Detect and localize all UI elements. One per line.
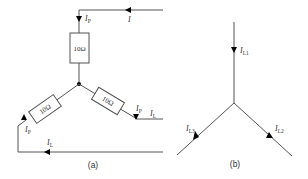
label-l2: IL2	[274, 124, 284, 134]
arrow-phase-top-icon	[76, 16, 82, 22]
arrow-l1-icon	[231, 47, 237, 53]
label-line-bottom: IL	[46, 138, 54, 148]
label-line-right: IL	[149, 109, 157, 119]
arrow-phase-left-icon	[21, 114, 27, 120]
bottom-line-wire	[18, 120, 163, 152]
resistor-right: 10Ω	[92, 87, 125, 114]
resistor-left: 10Ω	[29, 95, 62, 124]
label-phase-right: IP	[135, 104, 142, 114]
label-phase-left: IP	[24, 125, 31, 135]
resistor-top-label: 10Ω	[73, 45, 85, 53]
caption-a: (a)	[88, 160, 99, 170]
caption-b: (b)	[230, 159, 241, 169]
panel-a: I IP 10Ω 10Ω IP IL 10Ω IP IL (a)	[18, 7, 163, 170]
star-connection-figure: I IP 10Ω 10Ω IP IL 10Ω IP IL (a)	[0, 0, 308, 179]
label-l1: IL1	[239, 46, 249, 56]
label-line-top: I	[127, 15, 131, 24]
label-l3: IL3	[185, 124, 195, 134]
label-phase-top: IP	[84, 14, 91, 24]
arrow-line-bottom-icon	[44, 149, 50, 155]
top-line-wire	[79, 10, 163, 33]
panel-b: IL1 IL3 IL2 (b)	[177, 22, 292, 169]
arrow-line-top-icon	[125, 7, 131, 13]
